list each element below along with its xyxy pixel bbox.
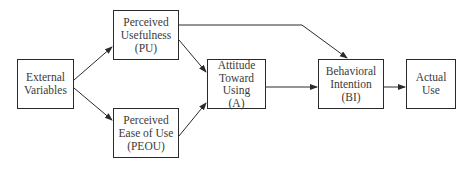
edge-ext-pu [74,47,112,80]
node-label: Perceived Usefulness (PU) [121,16,171,55]
edge-ext-peou [74,88,112,120]
node-perceived-usefulness: Perceived Usefulness (PU) [113,10,179,60]
node-label: Perceived Ease of Use (PEOU) [119,114,174,153]
node-attitude-toward-using: Attitude Toward Using (A) [207,59,266,109]
node-actual-use: Actual Use [406,59,456,109]
tam-diagram: External Variables Perceived Usefulness … [0,0,473,169]
node-behavioral-intention: Behavioral Intention (BI) [318,59,384,109]
node-external-variables: External Variables [17,59,74,109]
node-label: Actual Use [416,71,447,97]
node-perceived-ease-of-use: Perceived Ease of Use (PEOU) [113,108,179,158]
edge-pu-att [179,40,206,72]
node-label: Behavioral Intention (BI) [326,65,376,104]
edge-peou-att [179,103,206,136]
edge-pu-bi [179,25,347,58]
node-label: External Variables [24,71,67,97]
node-label: Attitude Toward Using (A) [218,59,256,109]
